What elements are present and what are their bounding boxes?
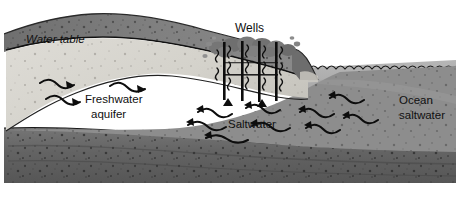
label-saltwater: Saltwater xyxy=(228,118,276,130)
well-pipe-2 xyxy=(241,41,244,101)
well-pipe-3 xyxy=(258,41,261,102)
cross-section-svg: Water table Wells Freshwater aquifer Sal… xyxy=(0,0,464,199)
label-freshwater-aquifer-line1: Freshwater xyxy=(85,93,143,105)
label-freshwater-aquifer-line2: aquifer xyxy=(91,108,126,120)
label-water-table: Water table xyxy=(26,33,85,45)
label-ocean-line2: saltwater xyxy=(399,109,445,121)
illustration-body: Water table Wells Freshwater aquifer Sal… xyxy=(4,3,462,183)
well-pipe-1 xyxy=(223,42,226,100)
well-pipe-4 xyxy=(275,42,278,101)
label-wells: Wells xyxy=(235,21,264,35)
label-ocean-line1: Ocean xyxy=(399,94,433,106)
saltwater-intrusion-figure: Water table Wells Freshwater aquifer Sal… xyxy=(0,0,464,199)
